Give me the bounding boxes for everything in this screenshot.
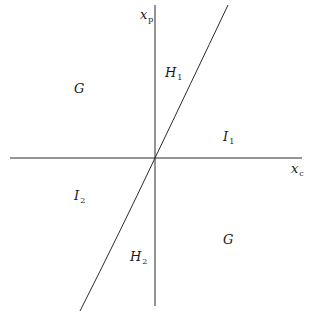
axis-label-xp: xp: [140, 8, 153, 24]
diagram-canvas: [0, 0, 310, 320]
region-label-h2: H2: [130, 250, 147, 266]
region-label-g-lower-right: G: [223, 233, 233, 246]
region-label-g-upper-left: G: [74, 82, 84, 95]
region-label-i1: I1: [223, 130, 234, 146]
region-label-h1: H1: [165, 66, 182, 82]
region-label-i2: I2: [74, 189, 85, 205]
axis-label-xc: xc: [291, 162, 304, 178]
